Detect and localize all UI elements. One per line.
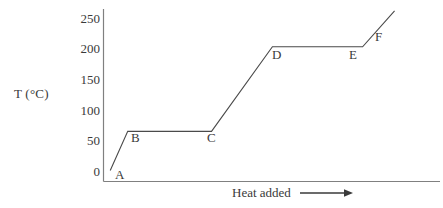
point-label-f: F: [375, 30, 382, 43]
point-label-a: A: [115, 168, 124, 181]
y-tick-label-200: 200: [66, 42, 100, 55]
y-tick-label-150: 150: [66, 73, 100, 86]
y-tick-label-0: 0: [66, 165, 100, 178]
point-label-b: B: [131, 131, 140, 144]
point-label-c: C: [207, 131, 216, 144]
x-axis-arrow-icon: [300, 186, 354, 202]
y-tick-label-50: 50: [66, 134, 100, 147]
heating-curve-chart: T (°C) 250 200 150 100 50 0 A B C D E F …: [0, 0, 443, 208]
y-axis-title: T (°C): [14, 86, 49, 102]
x-axis-title: Heat added: [232, 185, 354, 202]
point-label-d: D: [272, 48, 281, 61]
x-axis-title-text: Heat added: [232, 185, 291, 200]
y-tick-label-250: 250: [66, 12, 100, 25]
point-label-e: E: [349, 48, 357, 61]
heating-curve-line: [110, 11, 394, 170]
y-axis-title-text: T (°C): [14, 86, 49, 101]
y-tick-label-100: 100: [66, 104, 100, 117]
